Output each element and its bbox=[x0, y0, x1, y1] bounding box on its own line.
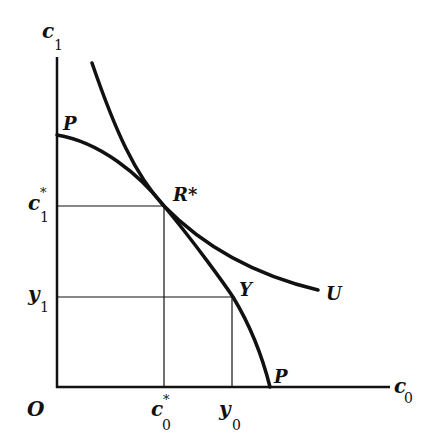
svg-text:0: 0 bbox=[232, 417, 241, 433]
ppf-label-top: P bbox=[62, 113, 77, 134]
y-axis-label: c 1 bbox=[42, 19, 63, 53]
svg-text:1: 1 bbox=[54, 37, 63, 53]
tangency-point-label: R* bbox=[172, 184, 198, 205]
svg-text:y: y bbox=[27, 282, 41, 306]
svg-text:*: * bbox=[40, 185, 47, 200]
ppf-label-bottom: P bbox=[273, 366, 288, 387]
indifference-label: U bbox=[326, 283, 343, 304]
svg-text:1: 1 bbox=[40, 209, 49, 225]
tick-label-c1-star: c * 1 bbox=[28, 185, 49, 225]
tick-label-y1: y 1 bbox=[27, 282, 49, 315]
tick-label-y0: y 0 bbox=[218, 397, 241, 433]
svg-text:c: c bbox=[28, 191, 40, 215]
svg-text:*: * bbox=[163, 392, 170, 407]
endowment-point-label: Y bbox=[239, 279, 254, 300]
svg-text:0: 0 bbox=[404, 390, 413, 406]
origin-label: O bbox=[27, 397, 45, 421]
diagram-canvas: c 1 c 0 O P P U R* Y c * 1 y 1 c * 0 y 0 bbox=[0, 0, 435, 447]
svg-text:y: y bbox=[218, 397, 232, 421]
x-axis-label: c 0 bbox=[394, 374, 413, 406]
svg-text:1: 1 bbox=[40, 299, 49, 315]
tick-label-c0-star: c * 0 bbox=[151, 392, 171, 433]
svg-text:c: c bbox=[42, 19, 54, 43]
svg-text:0: 0 bbox=[162, 417, 171, 433]
